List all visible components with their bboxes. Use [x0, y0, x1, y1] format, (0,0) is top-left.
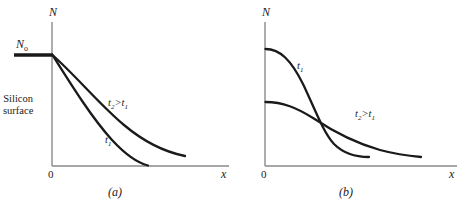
panel-b: N x 0 t1 t2>t1 (b): [235, 0, 470, 208]
panel-a-origin-tick: 0: [48, 168, 54, 180]
panel-a-label-t2-gt-t1: t2>t1: [108, 97, 128, 111]
panel-b-caption: (b): [339, 186, 353, 199]
diffusion-profile-figure: N x 0 No Siliconsurface t2>t1 t1 (a) N x…: [0, 0, 470, 208]
panel-a: N x 0 No Siliconsurface t2>t1 t1 (a): [0, 0, 235, 208]
panel-b-label-t2-gt-t1: t2>t1: [355, 108, 375, 122]
t1-sub: 1: [108, 140, 111, 147]
panel-b-label-t1: t1: [297, 60, 303, 74]
panel-a-n0-label: No: [16, 38, 28, 54]
t1-sub: 1: [371, 114, 374, 121]
panel-a-silicon-surface-label: Siliconsurface: [3, 93, 33, 117]
panel-b-origin-tick: 0: [261, 168, 267, 180]
panel-a-caption: (a): [108, 186, 122, 199]
panel-b-plot: [235, 0, 470, 208]
panel-a-n0-sub: o: [24, 44, 28, 53]
panel-b-y-axis-label: N: [262, 6, 270, 19]
panel-a-y-axis-label: N: [49, 6, 57, 19]
t1-sub: 1: [124, 103, 127, 110]
silicon-surface-line-2: surface: [3, 105, 33, 116]
panel-a-label-t1: t1: [105, 134, 111, 148]
panel-a-x-axis-label: x: [221, 168, 226, 181]
panel-a-curve-t1: [53, 55, 149, 166]
silicon-surface-line-1: Silicon: [3, 93, 33, 104]
panel-b-x-axis-label: x: [449, 168, 454, 181]
panel-b-curve-t2: [266, 102, 422, 157]
panel-a-n0-base: N: [16, 37, 24, 51]
t1-sub: 1: [300, 66, 303, 73]
